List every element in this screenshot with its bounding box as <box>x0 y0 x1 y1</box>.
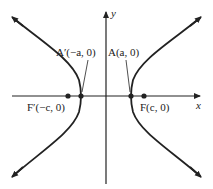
hyperbola-left-branch <box>13 18 81 176</box>
hyperbola-right-branch <box>131 18 200 176</box>
vertex-right-leader <box>126 60 130 92</box>
vertex-left-label: A′(−a, 0) <box>56 46 96 59</box>
vertex-right-point <box>128 93 133 98</box>
vertex-left-point <box>78 93 83 98</box>
vertex-left-leader <box>82 60 88 92</box>
hyperbola-diagram: y x A′(−a, 0) A(a, 0) F′(−c, 0) F(c, 0) <box>0 0 213 189</box>
y-axis-label: y <box>110 7 116 19</box>
focus-left-point <box>65 93 70 98</box>
x-axis-label: x <box>195 99 201 111</box>
focus-right-point <box>141 93 146 98</box>
focus-left-label: F′(−c, 0) <box>27 101 65 114</box>
vertex-right-label: A(a, 0) <box>108 46 139 59</box>
focus-right-label: F(c, 0) <box>140 101 170 114</box>
